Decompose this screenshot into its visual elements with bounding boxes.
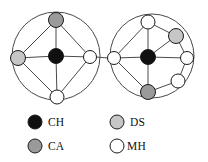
graph-edge xyxy=(57,57,90,97)
graph-node-mh[interactable] xyxy=(141,15,155,29)
legend-label-ch: CH xyxy=(48,116,64,128)
legend-swatch-ds xyxy=(110,115,124,129)
legend-swatch-ca xyxy=(28,139,42,153)
graph-node-ca[interactable] xyxy=(141,85,156,100)
nodes-layer xyxy=(11,13,194,105)
graph-node-ds[interactable] xyxy=(169,29,184,44)
graph-node-mh[interactable] xyxy=(108,52,121,65)
graph-diagram: CHCADSMH xyxy=(0,0,208,162)
edges-layer xyxy=(18,20,187,97)
legend-swatch-mh xyxy=(110,139,124,153)
inter-cluster-edge xyxy=(96,57,108,58)
legend-layer: CHCADSMH xyxy=(28,115,146,153)
graph-node-mh[interactable] xyxy=(84,51,97,64)
graph-node-mh[interactable] xyxy=(181,52,194,65)
legend-swatch-ch xyxy=(28,115,42,129)
legend-label-ca: CA xyxy=(48,140,65,152)
legend-label-ds: DS xyxy=(130,116,145,128)
graph-node-ds[interactable] xyxy=(11,51,26,66)
cluster-outlines-layer xyxy=(12,12,194,100)
figure-root: CHCADSMH xyxy=(0,0,208,162)
legend-label-mh: MH xyxy=(127,140,146,152)
graph-node-ch[interactable] xyxy=(49,49,64,64)
graph-node-mh[interactable] xyxy=(50,90,64,104)
graph-node-ca[interactable] xyxy=(49,13,64,28)
graph-edge xyxy=(18,58,57,97)
graph-node-mh[interactable] xyxy=(171,74,185,88)
graph-node-ch[interactable] xyxy=(141,50,156,65)
